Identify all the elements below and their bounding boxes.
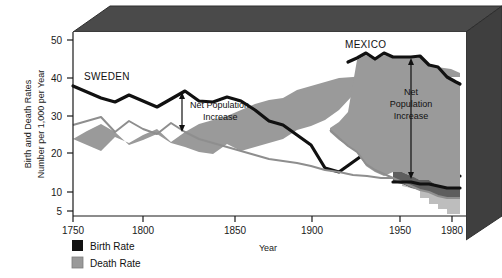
sweden-net-increase-label-line2: Increase xyxy=(203,112,238,122)
x-tick-label-1800: 1800 xyxy=(132,225,155,236)
x-tick-label-1850: 1850 xyxy=(224,225,247,236)
sweden-net-increase-label-line1: Net Population xyxy=(190,100,249,110)
legend-label-death-rate: Death Rate xyxy=(90,258,141,269)
y-tick-label-30: 30 xyxy=(51,111,63,122)
y-tick-label-50: 50 xyxy=(51,35,63,46)
frame-right-wall xyxy=(466,6,502,240)
y-tick-label-20: 20 xyxy=(51,148,63,159)
mexico-net-increase-label-line2: Population xyxy=(390,99,433,109)
y-tick-label-40: 40 xyxy=(51,73,63,84)
legend-label-birth-rate: Birth Rate xyxy=(90,241,135,252)
y-axis-title-line1: Birth and Death Rates xyxy=(23,79,33,168)
y-tick-marks xyxy=(67,40,73,211)
mexico-label: MEXICO xyxy=(345,39,386,50)
x-tick-label-1950: 1950 xyxy=(389,225,412,236)
population-rates-chart: 50 40 30 20 10 5 1750 1800 1850 1900 195… xyxy=(0,0,502,278)
legend-swatch-birth-rate xyxy=(72,240,83,251)
frame-top-slab xyxy=(73,6,502,32)
legend-swatch-death-rate xyxy=(72,257,83,268)
x-tick-label-1900: 1900 xyxy=(301,225,324,236)
y-axis-title-line2: Number per 1,000 per Year xyxy=(36,70,46,179)
x-tick-label-1980: 1980 xyxy=(441,225,464,236)
x-tick-label-1750: 1750 xyxy=(62,225,85,236)
x-axis-title: Year xyxy=(259,243,277,253)
sweden-label: SWEDEN xyxy=(84,71,130,82)
mexico-net-increase-label-line1: Net xyxy=(404,87,419,97)
y-tick-label-10: 10 xyxy=(51,187,63,198)
mexico-net-increase-label-line3: Increase xyxy=(394,111,429,121)
chart-figure: 50 40 30 20 10 5 1750 1800 1850 1900 195… xyxy=(0,0,502,278)
y-tick-label-5: 5 xyxy=(56,206,62,217)
